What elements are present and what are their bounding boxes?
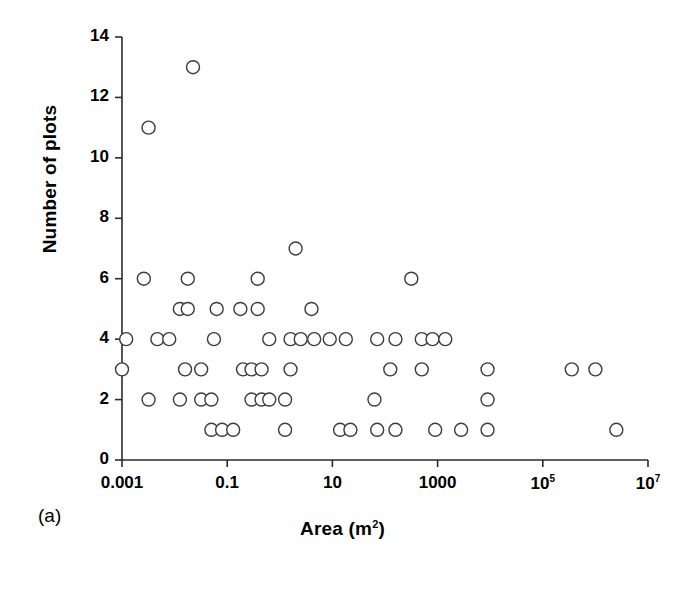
x-tick-label-105: 105: [531, 473, 555, 494]
data-point: [263, 333, 276, 346]
data-point: [384, 363, 397, 376]
data-point: [481, 423, 494, 436]
data-point: [227, 423, 240, 436]
data-point: [305, 302, 318, 315]
data-point: [181, 272, 194, 285]
data-point: [251, 302, 264, 315]
data-point: [323, 333, 336, 346]
y-tick-label-10: 10: [75, 147, 109, 167]
data-point: [142, 393, 155, 406]
data-point: [481, 363, 494, 376]
data-point: [151, 333, 164, 346]
data-point: [389, 423, 402, 436]
x-axis-title-base: Area (m: [300, 518, 372, 539]
data-point: [142, 121, 155, 134]
panel-caption: (a): [38, 505, 61, 527]
figure-panel-a: 02468101214 0.0010.1101000105107 Number …: [0, 0, 691, 598]
data-point: [279, 393, 292, 406]
data-point: [610, 423, 623, 436]
y-tick-label-14: 14: [75, 26, 109, 46]
data-point: [371, 423, 384, 436]
data-point: [255, 363, 268, 376]
data-point: [116, 363, 129, 376]
data-point: [181, 302, 194, 315]
data-point: [389, 333, 402, 346]
x-tick-mantissa: 10: [636, 474, 655, 493]
data-point: [173, 393, 186, 406]
y-axis-title: Number of plots: [39, 69, 61, 289]
data-point: [279, 423, 292, 436]
data-point: [415, 363, 428, 376]
data-point: [251, 272, 264, 285]
data-point: [339, 333, 352, 346]
data-point: [429, 423, 442, 436]
y-tick-label-4: 4: [75, 328, 109, 348]
data-point: [405, 272, 418, 285]
data-point: [589, 363, 602, 376]
x-axis-title-tail: ): [378, 518, 385, 539]
data-marker-layer: [116, 61, 623, 437]
data-point: [120, 333, 133, 346]
x-tick-exponent: 7: [655, 473, 661, 484]
data-point: [207, 333, 220, 346]
y-tick-label-2: 2: [75, 389, 109, 409]
data-point: [426, 333, 439, 346]
x-tick-label-0.1: 0.1: [215, 473, 239, 493]
data-point: [179, 363, 192, 376]
data-point: [565, 363, 578, 376]
data-point: [234, 302, 247, 315]
x-tick-label-10: 10: [323, 473, 342, 493]
data-point: [205, 393, 218, 406]
data-point: [284, 363, 297, 376]
data-point: [308, 333, 321, 346]
x-tick-label-107: 107: [636, 473, 660, 494]
data-point: [195, 363, 208, 376]
x-tick-exponent: 5: [549, 473, 555, 484]
data-point: [439, 333, 452, 346]
y-tick-label-6: 6: [75, 268, 109, 288]
data-point: [137, 272, 150, 285]
data-point: [481, 393, 494, 406]
data-point: [263, 393, 276, 406]
data-point: [289, 242, 302, 255]
data-point: [210, 302, 223, 315]
data-point: [371, 333, 384, 346]
data-point: [187, 61, 200, 74]
data-point: [294, 333, 307, 346]
x-tick-label-0.001: 0.001: [101, 473, 144, 493]
x-tick-label-1000: 1000: [419, 473, 457, 493]
data-point: [344, 423, 357, 436]
y-tick-label-12: 12: [75, 86, 109, 106]
y-tick-label-0: 0: [75, 449, 109, 469]
data-point: [163, 333, 176, 346]
x-tick-mantissa: 10: [531, 474, 550, 493]
y-tick-label-8: 8: [75, 207, 109, 227]
x-axis-title: Area (m2): [300, 518, 385, 540]
data-point: [368, 393, 381, 406]
data-point: [455, 423, 468, 436]
